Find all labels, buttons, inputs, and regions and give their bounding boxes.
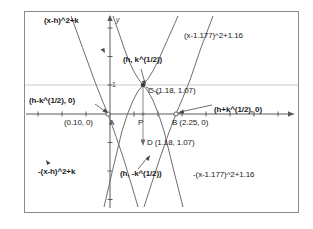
annotation-specific-up-parabola: (x-1.177)^2+1.16 [184,31,243,40]
annotation-vertex-upper: (h, k^(1/2)) [123,55,162,64]
annotation-generic-down-parabola: -(x-h)^2+k [38,167,75,176]
segment-cd-arrow-icon [141,140,146,147]
annotation-root-right: (h+k^(1/2), 0) [214,105,262,114]
point-marker-b [174,112,178,116]
graph-plot [0,0,313,229]
y-tick-label-1: 1 [112,80,116,89]
curve-arrow-left-upper-icon [101,48,106,53]
label-point-a: A [109,118,114,127]
leader-root-right-arrow-icon [178,110,185,114]
point-marker-p [141,112,144,115]
annotation-generic-up-parabola: (x-h)^2+k [44,16,79,25]
x-axis-arrow-icon [288,111,294,116]
annotation-root-left: (h-k^(1/2), 0) [29,96,75,105]
leader-root-right [180,105,212,112]
label-point-a-coord: (0.10, 0) [64,118,93,127]
y-axis-label: y [116,15,119,24]
y-axis-arrow-icon [107,15,112,21]
annotation-vertex-lower: (h, -k^(1/2)) [120,169,162,178]
label-point-c: C (1.18, 1.07) [148,86,196,95]
figure-canvas: (x-h)^2+k (x-1.177)^2+1.16 (h, k^(1/2)) … [0,0,313,229]
curve-up-parabola [113,16,178,85]
leader-vertex-lower-arrow-icon [146,155,151,161]
label-point-p: P [138,118,143,127]
curve-arrow-left-lower-icon [46,160,51,165]
annotation-specific-down-parabola: -(x-1.177)^2+1.16 [193,170,254,179]
label-point-d: D (1.18, 1.07) [147,138,195,147]
label-point-b: B (2.25, 0) [172,118,208,127]
